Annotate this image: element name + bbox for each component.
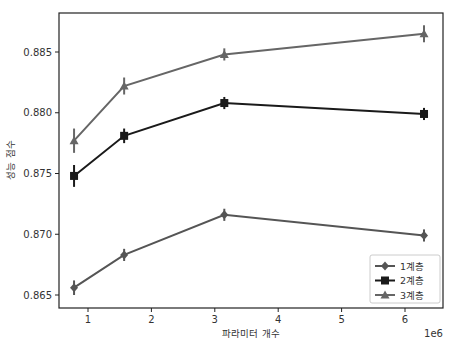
- data-point-marker: [220, 99, 228, 107]
- x-tick-label: 1: [85, 314, 91, 325]
- x-tick-label: 4: [275, 314, 281, 325]
- legend: 1계층2계층3계층: [370, 255, 440, 303]
- line-chart: 0.8650.8700.8750.8800.885 123456 파라미터 개수…: [0, 0, 456, 353]
- data-point-marker: [120, 132, 128, 140]
- legend-marker: [381, 277, 389, 285]
- y-tick-label: 0.885: [23, 47, 52, 58]
- y-axis: 0.8650.8700.8750.8800.885: [23, 47, 59, 301]
- y-tick-label: 0.875: [23, 168, 52, 179]
- legend-label: 2계층: [400, 275, 424, 286]
- data-point-marker: [420, 110, 428, 118]
- y-tick-label: 0.865: [23, 290, 52, 301]
- legend-label: 3계층: [400, 290, 424, 301]
- y-tick-label: 0.870: [23, 229, 52, 240]
- data-point-marker: [70, 172, 78, 180]
- x-axis-label: 파라미터 개수: [222, 328, 279, 339]
- x-axis: 123456: [85, 308, 408, 325]
- x-tick-label: 5: [338, 314, 344, 325]
- x-tick-label: 6: [402, 314, 408, 325]
- legend-label: 1계층: [400, 261, 424, 272]
- x-tick-label: 2: [148, 314, 154, 325]
- x-offset-label: 1e6: [424, 328, 443, 339]
- x-tick-label: 3: [212, 314, 218, 325]
- y-axis-label: 성능 점수: [5, 140, 16, 179]
- y-tick-label: 0.880: [23, 107, 52, 118]
